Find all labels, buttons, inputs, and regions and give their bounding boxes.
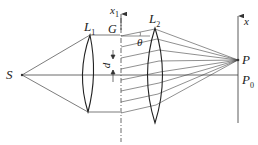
label-screen-axis: x xyxy=(244,16,249,27)
label-point-p0-main: P xyxy=(242,72,250,87)
lens-l1 xyxy=(82,35,93,112)
label-lens2: L2 xyxy=(149,12,160,29)
label-point-p0: P0 xyxy=(242,73,254,90)
source-rays xyxy=(22,35,90,112)
label-point-p: P xyxy=(242,53,250,66)
point-p xyxy=(237,59,240,62)
label-source: S xyxy=(6,68,13,81)
label-lens1: L1 xyxy=(84,20,95,37)
label-point-p0-sub: 0 xyxy=(250,81,254,90)
grating-diffraction-diagram xyxy=(0,0,258,145)
label-grating-axis: x1 xyxy=(110,5,119,19)
collimated-beam xyxy=(88,35,120,112)
converging-rays xyxy=(155,29,238,105)
label-grating: G xyxy=(108,23,117,35)
lens-l2 xyxy=(148,28,163,123)
label-angle-theta: θ xyxy=(137,37,142,48)
label-grating-axis-sub: 1 xyxy=(115,10,119,19)
source-point xyxy=(21,74,23,76)
label-spacing-d: d xyxy=(101,63,112,69)
label-lens2-sub: 2 xyxy=(156,20,160,29)
label-lens1-sub: 1 xyxy=(91,28,95,37)
